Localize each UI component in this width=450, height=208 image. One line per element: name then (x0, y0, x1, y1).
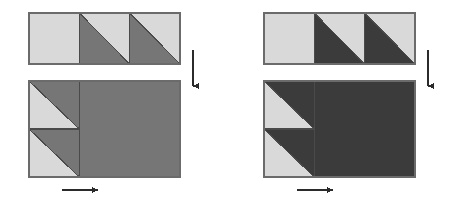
left-diagram-bottom-rectangle (29, 81, 180, 177)
bottom-left-cell-0 (264, 81, 314, 129)
top-strip-cell-1 (314, 13, 364, 64)
tiling-diagram (0, 0, 450, 208)
top-strip-cell-1 (79, 13, 129, 64)
figure-stage (0, 0, 450, 208)
left-diagram-top-strip (29, 13, 180, 64)
bottom-left-cell-1 (29, 129, 79, 177)
bottom-left-cell-1 (264, 129, 314, 177)
right-diagram (264, 13, 428, 190)
left-diagram (29, 13, 193, 190)
top-strip-cell-2 (130, 13, 180, 64)
right-diagram-top-strip (264, 13, 415, 64)
top-strip-cell-0 (264, 13, 314, 64)
bottom-left-cell-0 (29, 81, 79, 129)
cell-light-base (29, 13, 79, 64)
right-diagram-bottom-rectangle (264, 81, 415, 177)
bottom-solid-dark-region (79, 81, 180, 177)
top-strip-cell-0 (29, 13, 79, 64)
bottom-solid-dark-region (314, 81, 415, 177)
cell-light-base (264, 13, 314, 64)
top-strip-cell-2 (365, 13, 415, 64)
